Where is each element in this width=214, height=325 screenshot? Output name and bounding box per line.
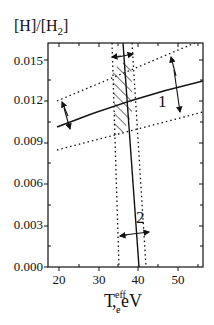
svg-text:0.012: 0.012 bbox=[14, 92, 43, 107]
x-axis-label: Teff, eV bbox=[104, 289, 142, 311]
svg-text:0.009: 0.009 bbox=[14, 133, 43, 148]
x-axis-label-subscript: e bbox=[116, 304, 121, 315]
y-axis-label: [H]/[H2] bbox=[14, 17, 68, 37]
svg-text:50: 50 bbox=[172, 272, 185, 287]
chart: [H]/[H2] 0.015 0.012 0.009 0.006 0.003 0… bbox=[0, 0, 214, 325]
svg-text:40: 40 bbox=[132, 272, 145, 287]
svg-text:0.000: 0.000 bbox=[14, 259, 43, 274]
y-tick-labels: 0.015 0.012 0.009 0.006 0.003 0.000 bbox=[14, 53, 44, 274]
curve-2-label: 2 bbox=[136, 208, 145, 227]
svg-text:0.015: 0.015 bbox=[14, 53, 43, 68]
svg-text:0.006: 0.006 bbox=[14, 175, 44, 190]
svg-text:20: 20 bbox=[53, 272, 66, 287]
svg-text:30: 30 bbox=[93, 272, 106, 287]
svg-text:0.003: 0.003 bbox=[14, 217, 43, 232]
curve-1-label: 1 bbox=[158, 92, 167, 111]
x-tick-labels: 20 30 40 50 bbox=[53, 272, 185, 287]
